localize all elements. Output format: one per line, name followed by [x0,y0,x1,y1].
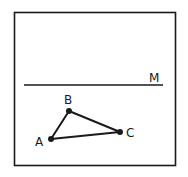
point-b-label: B [64,93,72,107]
point-b [66,108,72,114]
line-m-label: M [149,71,159,85]
point-c [117,129,123,135]
point-a [48,136,54,142]
triangle-abc [51,111,120,139]
point-c-label: C [126,126,134,140]
point-a-label: A [35,135,44,149]
diagram-canvas: M A B C [0,0,188,177]
